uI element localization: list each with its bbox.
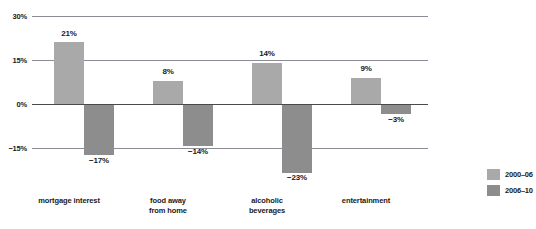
category-label-line-1: food away bbox=[113, 196, 223, 206]
category-label-line-1: mortgage interest bbox=[14, 196, 124, 206]
gridline-15: 15% bbox=[32, 60, 428, 61]
ytick-label-15: 15% bbox=[13, 56, 27, 65]
category-label-line-2: beverages bbox=[212, 206, 322, 216]
bar-2006-10-food-away-from-home bbox=[183, 105, 213, 146]
bar-value-2006-10-alcoholic-beverages: −23% bbox=[275, 173, 319, 182]
category-label-mortgage-interest: mortgage interest bbox=[14, 196, 124, 206]
legend-item-2000-06[interactable]: 2000–06 bbox=[487, 168, 533, 181]
bar-2006-10-mortgage-interest bbox=[84, 105, 114, 155]
plot-area: 30% 15% 0% −15% 21% −17% mortgage intere… bbox=[32, 0, 428, 190]
bar-2006-10-entertainment bbox=[381, 105, 411, 114]
category-label-food-away-from-home: food away from home bbox=[113, 196, 223, 216]
legend-swatch-2000-06 bbox=[487, 169, 500, 180]
legend-label-2006-10: 2006–10 bbox=[505, 186, 533, 195]
category-label-entertainment: entertainment bbox=[311, 196, 421, 206]
category-label-line-1: alcoholic bbox=[212, 196, 322, 206]
bar-chart: 30% 15% 0% −15% 21% −17% mortgage intere… bbox=[0, 0, 536, 229]
bar-value-2000-06-mortgage-interest: 21% bbox=[47, 29, 91, 38]
legend-label-2000-06: 2000–06 bbox=[505, 170, 533, 179]
bar-2000-06-food-away-from-home bbox=[153, 81, 183, 105]
bar-value-2006-10-entertainment: −3% bbox=[374, 115, 418, 124]
bar-2006-10-alcoholic-beverages bbox=[282, 105, 312, 173]
ytick-label-30: 30% bbox=[13, 12, 27, 21]
bar-value-2006-10-mortgage-interest: −17% bbox=[77, 156, 121, 165]
category-label-line-1: entertainment bbox=[311, 196, 421, 206]
bar-value-2000-06-alcoholic-beverages: 14% bbox=[245, 49, 289, 58]
bar-2000-06-alcoholic-beverages bbox=[252, 63, 282, 104]
category-label-line-2: from home bbox=[113, 206, 223, 216]
bar-2000-06-mortgage-interest bbox=[54, 42, 84, 104]
bar-2000-06-entertainment bbox=[351, 78, 381, 104]
bar-value-2000-06-food-away-from-home: 8% bbox=[146, 67, 190, 76]
legend-item-2006-10[interactable]: 2006–10 bbox=[487, 184, 533, 197]
ytick-label-0: 0% bbox=[17, 100, 27, 109]
bar-value-2006-10-food-away-from-home: −14% bbox=[176, 147, 220, 156]
legend: 2000–06 2006–10 bbox=[487, 168, 533, 200]
legend-swatch-2006-10 bbox=[487, 185, 500, 196]
gridline-30: 30% bbox=[32, 16, 428, 17]
category-label-alcoholic-beverages: alcoholic beverages bbox=[212, 196, 322, 216]
ytick-label-minus15: −15% bbox=[8, 144, 27, 153]
bar-value-2000-06-entertainment: 9% bbox=[344, 64, 388, 73]
